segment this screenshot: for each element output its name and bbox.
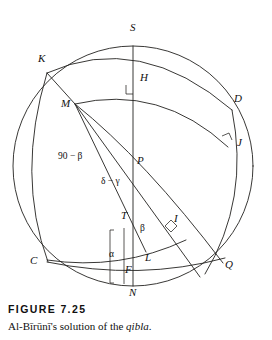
figure-container: S K H M D J P T I C L F Q N 90 − β δ − γ…: [0, 0, 272, 340]
point-label-K: K: [38, 53, 45, 64]
caption-text-after: .: [149, 320, 152, 332]
angle-label-beta: β: [140, 224, 145, 234]
point-label-H: H: [140, 72, 148, 83]
qibla-diagram-svg: [0, 0, 272, 300]
right-angle-mark-J: [222, 133, 232, 140]
caption-text-before: Al-Bīrūnī's solution of the: [8, 320, 126, 332]
point-label-D: D: [234, 93, 242, 104]
angle-label-90-minus-beta: 90 − β: [58, 152, 82, 162]
point-label-Q: Q: [225, 259, 233, 270]
arc-M-I-Q: [75, 104, 223, 263]
chord-M-P-I: [75, 104, 200, 277]
angle-label-delta-minus-gamma: δ − γ: [101, 177, 120, 187]
point-label-M: M: [61, 98, 70, 109]
figure-caption-title: FIGURE 7.25: [8, 303, 86, 315]
point-label-J: J: [237, 137, 242, 148]
point-label-T: T: [121, 210, 127, 221]
arc-K-S-D: [47, 58, 232, 110]
point-label-I: I: [174, 213, 178, 224]
caption-emphasis-qibla: qibla: [126, 320, 149, 332]
point-label-P: P: [137, 155, 144, 166]
point-label-L: L: [145, 252, 151, 263]
angle-label-alpha: α: [109, 250, 114, 260]
figure-caption-text: Al-Bīrūnī's solution of the qibla.: [8, 320, 151, 332]
right-angle-mark-H: [126, 85, 133, 94]
arc-C-L-inner: [47, 240, 186, 263]
point-label-N: N: [129, 287, 136, 298]
point-label-S: S: [130, 22, 136, 33]
arc-D-J-right: [205, 110, 237, 274]
point-label-F: F: [125, 264, 132, 275]
arc-C-F-Q: [47, 258, 225, 271]
point-label-C: C: [30, 255, 37, 266]
